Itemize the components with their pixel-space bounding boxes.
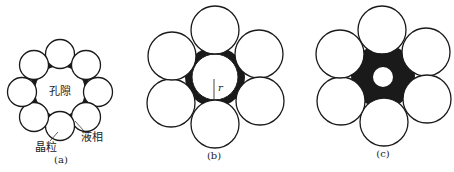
grain [403,75,451,123]
grain [46,40,75,69]
grain [20,51,49,80]
panel-c: (c) [316,6,451,159]
grain [317,77,365,125]
grain [148,32,196,80]
grain [8,78,37,107]
grain [72,103,101,132]
pore-shrinkage-diagram: 孔隙 晶粒 液相 (a) r (b) [0,0,454,172]
caption-a: (a) [54,154,68,165]
liquid-label: 液相 [81,130,103,144]
pore-label: 孔隙 [49,84,71,98]
residual-pore-c [373,67,393,87]
grain [147,79,195,127]
grain [360,98,408,146]
panel-a: 孔隙 晶粒 液相 (a) [8,40,113,166]
grain [191,6,239,54]
grain [46,112,75,141]
grain [235,30,283,78]
grain-label: 晶粒 [35,140,57,154]
caption-c: (c) [376,148,390,159]
panel-b: r (b) [147,6,284,161]
grain [358,6,406,54]
grain [316,30,364,78]
grain [191,100,239,148]
grain [72,51,101,80]
grain [402,28,450,76]
grain [236,77,284,125]
caption-b: (b) [207,150,221,161]
